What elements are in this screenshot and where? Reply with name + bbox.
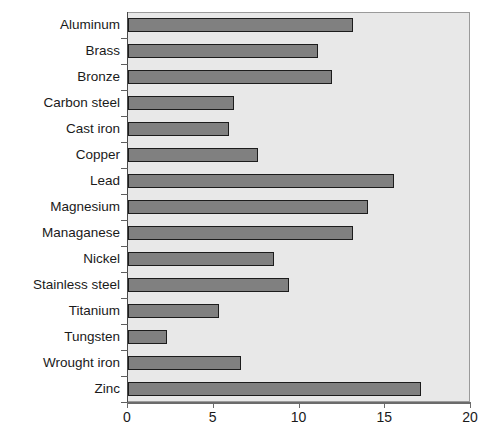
- category-label: Managanese: [42, 220, 120, 246]
- bar: [128, 148, 258, 162]
- bar: [128, 44, 318, 58]
- bar-row: Cast iron: [0, 116, 492, 142]
- bar: [128, 200, 368, 214]
- figure-horizontal-bar-chart: AluminumBrassBronzeCarbon steelCast iron…: [0, 0, 492, 446]
- bar: [128, 122, 229, 136]
- x-axis-tick: [213, 402, 214, 408]
- bar-row: Aluminum: [0, 12, 492, 38]
- category-label: Tungsten: [64, 324, 120, 350]
- bar: [128, 304, 219, 318]
- bar-row: Titanium: [0, 298, 492, 324]
- bar-row: Managanese: [0, 220, 492, 246]
- category-label: Wrought iron: [43, 350, 120, 376]
- category-rows: AluminumBrassBronzeCarbon steelCast iron…: [0, 12, 492, 402]
- x-axis-tick-label: 0: [123, 409, 131, 425]
- category-label: Bronze: [77, 64, 120, 90]
- bar: [128, 174, 394, 188]
- category-label: Magnesium: [50, 194, 120, 220]
- category-label: Nickel: [83, 246, 120, 272]
- x-axis-tick-label: 20: [462, 409, 478, 425]
- category-label: Lead: [90, 168, 120, 194]
- bar-row: Magnesium: [0, 194, 492, 220]
- bar-row: Stainless steel: [0, 272, 492, 298]
- bar: [128, 96, 234, 110]
- bar-row: Wrought iron: [0, 350, 492, 376]
- x-axis-tick-label: 10: [291, 409, 307, 425]
- bar: [128, 252, 274, 266]
- category-label: Copper: [76, 142, 120, 168]
- bar: [128, 330, 167, 344]
- category-label: Zinc: [94, 376, 120, 402]
- category-label: Cast iron: [66, 116, 120, 142]
- x-axis-tick: [384, 402, 385, 408]
- category-label: Carbon steel: [43, 90, 120, 116]
- bar: [128, 356, 241, 370]
- bar-row: Brass: [0, 38, 492, 64]
- category-label: Brass: [85, 38, 120, 64]
- x-axis-tick-label: 15: [376, 409, 392, 425]
- bar-row: Copper: [0, 142, 492, 168]
- x-axis-tick-label: 5: [209, 409, 217, 425]
- x-axis-tick: [127, 402, 128, 408]
- bar-row: Lead: [0, 168, 492, 194]
- category-label: Stainless steel: [33, 272, 120, 298]
- bar: [128, 18, 353, 32]
- x-axis-tick: [470, 402, 471, 408]
- bar-row: Bronze: [0, 64, 492, 90]
- bar-row: Tungsten: [0, 324, 492, 350]
- bar-row: Zinc: [0, 376, 492, 402]
- category-label: Aluminum: [60, 12, 120, 38]
- bar: [128, 382, 421, 396]
- x-axis-tick: [299, 402, 300, 408]
- bar-row: Carbon steel: [0, 90, 492, 116]
- bar: [128, 278, 289, 292]
- bar-row: Nickel: [0, 246, 492, 272]
- bar: [128, 226, 353, 240]
- bar: [128, 70, 332, 84]
- category-label: Titanium: [69, 298, 120, 324]
